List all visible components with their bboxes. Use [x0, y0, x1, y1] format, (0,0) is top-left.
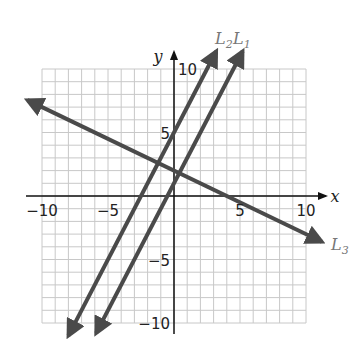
y-tick-label: −10	[138, 315, 170, 333]
y-tick-label: 10	[178, 61, 197, 79]
y-axis-label: y	[152, 47, 163, 66]
line-l2	[68, 51, 216, 335]
x-tick-label: 5	[235, 202, 245, 220]
line-label-l3: L3	[330, 235, 349, 257]
x-tick-label: −10	[26, 202, 58, 220]
line-label-l1: L1	[232, 29, 251, 51]
y-tick-label: 5	[160, 125, 170, 143]
y-tick-label: −5	[148, 252, 170, 270]
coordinate-plane: −10−5510−10−5510xyL1L2L3	[0, 0, 364, 342]
line-label-l2: L2	[214, 29, 233, 51]
x-tick-label: 10	[296, 202, 315, 220]
x-tick-label: −5	[97, 202, 119, 220]
x-axis-label: x	[330, 187, 339, 206]
